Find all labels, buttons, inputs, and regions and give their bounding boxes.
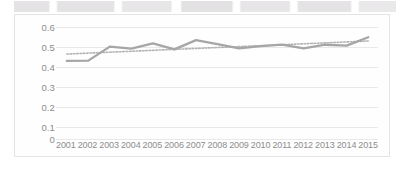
- y-axis-tick-5: 0.1: [41, 122, 55, 133]
- x-axis-tick-2007: 2007: [186, 140, 206, 150]
- x-axis-tick-2012: 2012: [293, 140, 313, 150]
- x-axis-tick-2014: 2014: [337, 140, 357, 150]
- x-axis-tick-2010: 2010: [251, 140, 271, 150]
- y-axis-tick-3: 0.3: [41, 82, 55, 93]
- series-plot: [56, 15, 379, 158]
- x-axis-tick-2005: 2005: [143, 140, 163, 150]
- y-axis-tick-4: 0.2: [41, 102, 55, 113]
- data-series-path: [67, 37, 368, 61]
- x-axis-labels: 2001 2002 2003 2004 2005 2006 2007 2008 …: [56, 140, 378, 150]
- x-axis-tick-2006: 2006: [164, 140, 184, 150]
- y-axis-tick-6: 0: [50, 134, 55, 145]
- x-axis-tick-2004: 2004: [121, 140, 141, 150]
- x-axis-tick-2011: 2011: [272, 140, 291, 150]
- scan-noise-artifact: [14, 1, 396, 12]
- y-axis-tick-0: 0.6: [41, 22, 55, 33]
- y-axis-tick-1: 0.5: [41, 42, 55, 53]
- x-axis-tick-2002: 2002: [78, 140, 98, 150]
- x-axis-tick-2003: 2003: [99, 140, 119, 150]
- plot-area: 0.6 0.5 0.4 0.3 0.2 0.1 0 2001 2002 2003…: [15, 15, 389, 156]
- x-axis-tick-2015: 2015: [358, 140, 378, 150]
- x-axis-tick-2009: 2009: [229, 140, 249, 150]
- x-axis-tick-2008: 2008: [207, 140, 227, 150]
- chart-container: 0.6 0.5 0.4 0.3 0.2 0.1 0 2001 2002 2003…: [14, 14, 390, 157]
- y-axis-tick-2: 0.4: [41, 62, 55, 73]
- x-axis-tick-2013: 2013: [315, 140, 335, 150]
- x-axis-tick-2001: 2001: [56, 140, 76, 150]
